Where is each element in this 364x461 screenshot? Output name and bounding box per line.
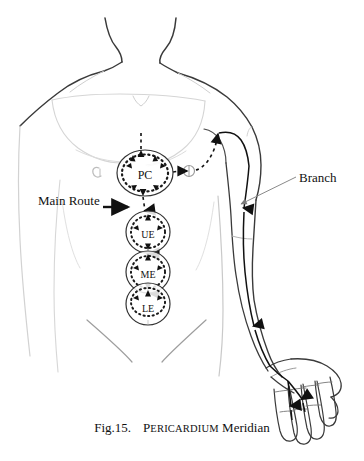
meridian-pc-to-ue — [143, 197, 145, 211]
body-outline — [19, 18, 342, 444]
meridian-branch-to-axilla — [173, 171, 187, 172]
neck-base-right — [160, 63, 178, 73]
armpit-crease — [204, 129, 226, 163]
caption-suffix: Meridian — [222, 420, 270, 435]
branch-leader — [241, 177, 296, 204]
pericardium-meridian-diagram: PC UE ME LE — [0, 0, 364, 461]
abdomen-contour-left — [62, 200, 80, 268]
knuckle-crease-3 — [302, 385, 319, 387]
rib-arch-right — [162, 320, 206, 362]
figure-page: PC UE ME LE — [0, 0, 364, 461]
elbow-crease — [232, 236, 252, 239]
branch-label: Branch — [299, 171, 337, 184]
abdomen-contour-right — [196, 202, 214, 270]
finger-joint-1 — [280, 411, 295, 412]
pectoral-left — [52, 100, 122, 163]
deltoid-outer — [252, 127, 261, 200]
pc-label: PC — [138, 168, 153, 182]
torso-right-flank — [218, 196, 223, 376]
neck-base-left — [104, 62, 122, 71]
torso-left-side — [19, 126, 31, 356]
knuckle-crease-4 — [316, 382, 332, 384]
thumb — [329, 397, 338, 418]
me-label: ME — [141, 269, 156, 280]
wrist-line-2 — [271, 368, 296, 377]
meridian-name-rest: ERICARDIUM — [150, 423, 219, 434]
torso-right-side — [247, 127, 252, 136]
acupoint-circle-pc: PC — [117, 150, 173, 196]
acupoint-circle-ue: UE — [126, 211, 170, 253]
neck-right-contour — [160, 18, 176, 63]
rib-arch-left — [87, 320, 132, 362]
sternum-notch — [133, 96, 149, 106]
meridian-finger-middle-lower — [291, 410, 292, 420]
shoulder-right-slope — [178, 73, 252, 127]
chest-upper-contour — [52, 94, 205, 101]
finger-joint-2 — [293, 409, 308, 410]
acupoint-circle-le: LE — [126, 283, 170, 325]
meridian-branch-axilla-rise — [196, 134, 218, 170]
ue-label: UE — [141, 229, 154, 240]
torso-left-flank — [54, 180, 60, 372]
figure-number: Fig.15. — [94, 420, 131, 435]
main-route-label: Main Route — [38, 194, 100, 207]
le-label: LE — [142, 303, 154, 314]
figure-caption: Fig.15.PERICARDIUM Meridian — [0, 420, 364, 436]
neck-left-contour — [105, 18, 122, 62]
